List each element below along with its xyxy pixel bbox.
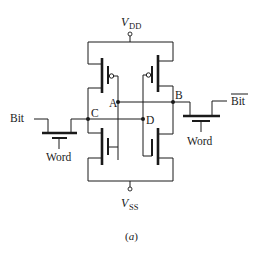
node-a-label: A <box>109 97 118 109</box>
access-transistor-right-icon: Word Bit <box>173 94 248 147</box>
vdd-terminal-icon <box>128 32 132 36</box>
node-c-label: C <box>91 107 99 119</box>
word-label-left: Word <box>46 151 72 163</box>
bit-label: Bit <box>10 112 25 124</box>
vss-supply: V SS <box>88 181 173 212</box>
vss-subscript: SS <box>129 202 139 212</box>
node-d-dot <box>141 117 145 121</box>
vdd-supply: V DD <box>88 15 173 42</box>
figure-caption: (a) <box>125 230 138 243</box>
nmos-left-icon <box>88 119 118 181</box>
node-b-label: B <box>175 89 183 101</box>
sram-cell-diagram: V DD <box>0 0 259 255</box>
bit-bar-label: Bit <box>231 95 246 107</box>
access-transistor-left-icon: Bit Word <box>10 112 88 163</box>
vss-terminal-icon <box>128 187 132 191</box>
node-d-label: D <box>146 114 154 126</box>
vdd-subscript: DD <box>129 21 141 31</box>
word-label-right: Word <box>187 135 213 147</box>
node-c-dot <box>86 117 90 121</box>
